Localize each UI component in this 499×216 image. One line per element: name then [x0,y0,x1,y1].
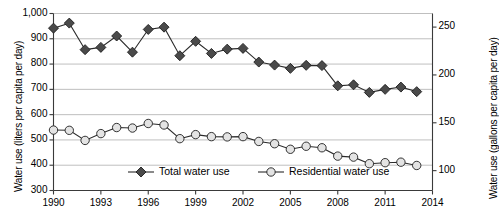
x-tick-label: 1996 [128,197,168,208]
data-point [412,87,422,97]
data-point [285,63,295,73]
data-point [81,136,89,144]
gridlines [54,14,433,166]
x-tick-label: 2014 [413,197,453,208]
data-point [206,48,216,58]
data-point [349,153,357,161]
data-point [159,22,169,32]
x-tick-label: 2011 [365,197,405,208]
data-point [112,123,120,131]
data-point [49,23,59,33]
y-tick-label-left: 900 [14,32,48,43]
data-point [97,129,105,137]
data-point [286,145,294,153]
series-layer [49,18,422,170]
y-tick-label-right: 200 [439,68,473,79]
y-tick-label-left: 500 [14,133,48,144]
legend-marker-circle [267,168,275,176]
data-point [207,132,215,140]
x-tick-label: 1990 [34,197,74,208]
y-tick-label-left: 700 [14,82,48,93]
data-point [80,45,90,55]
data-point [96,42,106,52]
data-point [223,133,231,141]
x-tick-label: 1999 [176,197,216,208]
x-tick-label: 1993 [81,197,121,208]
data-point [301,60,311,70]
y-tick-label-right: 150 [439,116,473,127]
data-point [49,126,57,134]
legend-marker-diamond [136,167,146,177]
x-tick-label: 2008 [318,197,358,208]
x-tick-label: 2002 [223,197,263,208]
y-tick-label-left: 300 [14,184,48,195]
data-point [143,24,153,34]
x-tick-label: 2005 [270,197,310,208]
data-point [255,137,263,145]
data-point [349,80,359,90]
data-point [239,132,247,140]
data-point [380,84,390,94]
data-point [334,152,342,160]
y-tick-label-left: 600 [14,108,48,119]
y-tick-label-right: 250 [439,20,473,31]
data-point [144,119,152,127]
data-point [270,140,278,148]
data-point [396,82,406,92]
y-tick-label-left: 400 [14,158,48,169]
data-point [65,126,73,134]
legend-label: Total water use [159,165,230,177]
data-point [413,161,421,169]
data-point [302,142,310,150]
legend-label: Residential water use [289,165,389,177]
data-point [364,87,374,97]
data-point [128,124,136,132]
data-point [317,61,327,71]
data-point [222,44,232,54]
data-point [318,144,326,152]
data-point [176,134,184,142]
data-point [270,60,280,70]
y-tick-label-left: 1,000 [14,7,48,18]
data-point [191,130,199,138]
data-point [64,18,74,28]
y-tick-label-left: 800 [14,57,48,68]
y-tick-label-right: 100 [439,164,473,175]
series-line-0 [54,23,417,92]
series-line-1 [54,123,417,165]
data-point [397,158,405,166]
data-point [160,121,168,129]
